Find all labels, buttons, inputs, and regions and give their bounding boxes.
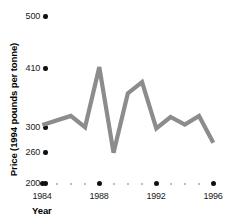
- price-line-chart: Price (1994 pounds per tonne) 500 410 30…: [0, 0, 228, 221]
- price-data-line: [42, 67, 213, 153]
- plot-area: [0, 0, 228, 221]
